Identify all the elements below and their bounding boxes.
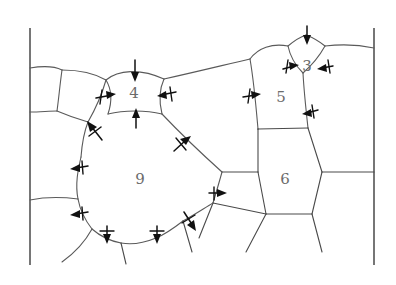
arrow-grain9-upper-right — [174, 136, 191, 151]
boundary-grain6-upper-right-edge — [308, 128, 322, 172]
migration-arrows — [70, 26, 333, 244]
boundary-leftgrain-right — [88, 80, 106, 122]
boundary-topleft-lower — [30, 111, 57, 112]
boundary-bottom-spur-b — [121, 243, 126, 264]
arrow-grain3-right — [317, 60, 333, 73]
boundary-grain5-right — [303, 73, 308, 128]
boundary-grain5-bottom — [258, 128, 308, 129]
boundary-grain6-left-edge — [258, 172, 266, 214]
arrow-grain5-left — [243, 89, 261, 103]
boundary-lower-left-down — [199, 203, 213, 238]
grain-label-4: 4 — [129, 84, 139, 102]
boundary-top-right-to-frame — [325, 45, 374, 48]
boundary-left-spur-upper — [30, 198, 78, 200]
boundary-topleft-to-node — [62, 70, 106, 80]
boundary-bottom-spur-c — [62, 229, 92, 262]
arrow-grain9-upper-left — [87, 121, 102, 140]
boundary-grain6-lower-right-edge — [312, 172, 322, 214]
boundary-grain3-top-left — [288, 35, 306, 46]
grain-label-9: 9 — [135, 170, 145, 188]
boundary-lower-right-down — [312, 214, 322, 252]
arrow-grain9-bottom-left — [100, 226, 114, 244]
arrow-grain9-right — [209, 187, 227, 200]
boundary-lower-node-link — [213, 203, 266, 214]
arrow-grain4-left — [96, 90, 116, 104]
boundary-grain9-left-upper — [77, 157, 81, 199]
grain-structure-figure: 4 3 5 6 9 — [0, 0, 396, 285]
arrow-grain3-left — [283, 60, 299, 73]
grain-label-5: 5 — [276, 88, 286, 106]
arrow-grain5-right — [302, 105, 318, 118]
boundary-grain9-bottom-mid — [121, 238, 156, 244]
arrow-grain4-top — [131, 60, 139, 82]
boundary-grain9-upper-left — [81, 122, 88, 157]
boundary-topleft-vertical — [57, 70, 62, 111]
arrow-grain3-top — [303, 26, 311, 45]
boundary-topleft-upper — [30, 67, 62, 70]
boundary-top-long — [164, 59, 250, 79]
boundary-grain9-upper-right — [162, 114, 222, 172]
grain-structure-canvas: 4 3 5 6 9 — [0, 0, 396, 285]
boundary-lower-mid-down — [246, 214, 266, 252]
grain-label-6: 6 — [280, 170, 290, 188]
grain-labels: 4 3 5 6 9 — [129, 57, 312, 188]
grain-label-3: 3 — [302, 57, 312, 75]
boundary-leftgrain-bottom — [57, 111, 88, 122]
boundary-grain5-top — [250, 45, 288, 59]
arrow-grain9-left-upper — [70, 161, 88, 174]
